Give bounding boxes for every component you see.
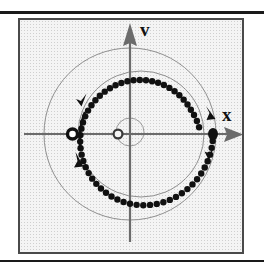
v-axis-arrowhead [123,23,137,46]
right-equilibrium-marker [208,128,218,140]
orbit-arrow-right-upper [206,106,216,120]
figure-container: v x [0,0,264,266]
origin-open-circle-marker [114,130,123,139]
left-fixed-point-marker [68,129,78,139]
phase-plane-plot [0,0,264,266]
v-axis-label: v [140,20,150,39]
x-axis-label: x [222,105,232,124]
dotted-orbit [77,77,216,209]
